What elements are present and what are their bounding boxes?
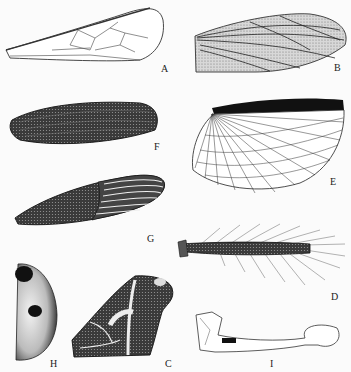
label-i: I xyxy=(270,358,273,369)
label-c: C xyxy=(165,358,172,369)
wing-f xyxy=(10,102,157,143)
plate-drawing xyxy=(0,0,351,372)
label-e: E xyxy=(330,176,336,187)
wing-a xyxy=(6,8,163,61)
wing-e xyxy=(192,98,344,193)
wing-b xyxy=(195,14,346,72)
wing-types-plate: A B F E G D H C I xyxy=(0,0,351,372)
wing-i xyxy=(196,312,339,352)
label-h: H xyxy=(50,358,57,369)
wing-c xyxy=(72,276,173,357)
label-f: F xyxy=(154,141,160,152)
label-b: B xyxy=(334,62,341,73)
wing-g xyxy=(15,175,165,225)
label-d: D xyxy=(331,291,338,302)
label-a: A xyxy=(161,63,168,74)
label-g: G xyxy=(147,233,154,244)
wing-d xyxy=(178,224,345,285)
wing-h xyxy=(15,264,57,360)
